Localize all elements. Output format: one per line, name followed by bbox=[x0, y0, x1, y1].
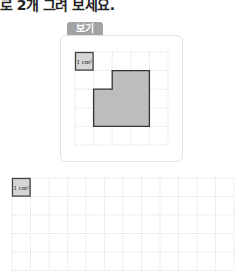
answer-grid[interactable] bbox=[12, 178, 234, 271]
example-unit-square: 1 cm² bbox=[76, 53, 94, 71]
example-unit-label: 1 cm² bbox=[76, 59, 92, 65]
answer-unit-square: 1 cm² bbox=[13, 179, 31, 197]
figure-canvas: 1 cm² 1 cm² bbox=[0, 0, 246, 280]
example-shape bbox=[94, 71, 150, 127]
answer-unit-label: 1 cm² bbox=[13, 185, 29, 191]
